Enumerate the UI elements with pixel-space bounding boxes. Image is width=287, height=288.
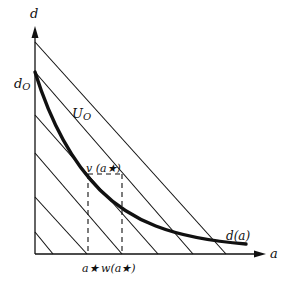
curve-label: d(a) <box>226 229 251 243</box>
d-of-a-curve <box>35 72 246 244</box>
d0-label-main: d <box>14 76 22 91</box>
x-axis-label: a <box>270 246 278 261</box>
y-axis-label: d <box>30 6 38 21</box>
y-axis-arrow-icon <box>32 26 39 38</box>
iso-lines <box>35 42 226 254</box>
point-label: v (a★) <box>86 162 121 175</box>
U0-label-sub: O <box>83 111 91 122</box>
dashed-guides <box>88 174 122 254</box>
x-axis-arrow-icon <box>254 251 266 258</box>
iso-line-1 <box>35 232 53 254</box>
a-star-label: a★ <box>82 262 100 275</box>
iso-line-2 <box>35 197 87 254</box>
U0-label: UO <box>72 106 91 122</box>
w-a-star-label: w(a★) <box>101 262 136 275</box>
d0-label-sub: O <box>22 81 30 92</box>
d0-label: dO <box>14 76 31 92</box>
diagram: d a dO UO v (a★) d(a) a★ w(a★) <box>0 0 287 288</box>
